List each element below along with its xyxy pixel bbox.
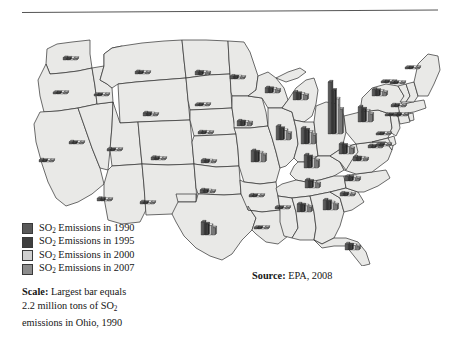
state-AZ — [104, 164, 146, 224]
legend-swatch-1990 — [22, 223, 33, 234]
scale-note-subscript: 2 — [114, 304, 118, 312]
bar-cluster-WV — [339, 142, 354, 154]
top-divider-rule — [22, 9, 438, 13]
source-note-value: EPA, 2008 — [286, 270, 333, 281]
legend-swatch-1995 — [22, 237, 33, 248]
bar-cluster-ME — [405, 66, 420, 69]
bar-cluster-ID — [94, 93, 109, 96]
bar-cluster-MA — [391, 103, 406, 107]
legend-label-2000: SO2 Emissions in 2000 — [39, 250, 134, 262]
bar-cluster-RI — [393, 113, 408, 116]
legend-swatch-2007 — [22, 264, 33, 275]
figure-sulfur-dioxide-emissions-map: SO2 Emissions in 1990 SO2 Emissions in 1… — [0, 0, 460, 342]
scale-note-label: Scale: — [22, 286, 48, 297]
bar-cluster-OR — [53, 91, 68, 94]
bar-cluster-SD — [195, 103, 210, 106]
bar-cluster-DE — [376, 143, 391, 146]
legend-label-1995: SO2 Emissions in 1995 — [39, 236, 134, 248]
state-MN — [228, 41, 258, 96]
legend-swatch-2000 — [22, 250, 33, 261]
legend-item-1995: SO2 Emissions in 1995 — [22, 236, 222, 250]
bar-cluster-NM — [140, 200, 155, 204]
bar-cluster-OH — [328, 80, 343, 134]
legend-label-1990: SO2 Emissions in 1990 — [39, 223, 134, 235]
legend: SO2 Emissions in 1990 SO2 Emissions in 1… — [22, 222, 222, 276]
bar-cluster-CA — [39, 158, 54, 162]
bar-cluster-AR — [249, 193, 264, 197]
source-note: Source: EPA, 2008 — [252, 270, 332, 281]
bar-cluster-NV — [69, 140, 84, 144]
state-WY — [118, 78, 190, 123]
bar-cluster-NH — [390, 81, 405, 84]
state-ME — [414, 54, 440, 96]
scale-note: Scale: Largest bar equals 2.2 million to… — [22, 285, 212, 330]
bar-cluster-MS — [275, 205, 290, 209]
bar-cluster-WA — [63, 56, 78, 60]
source-note-label: Source: — [252, 270, 286, 281]
bar-cluster-MT — [135, 70, 150, 74]
legend-item-1990: SO2 Emissions in 1990 — [22, 222, 222, 236]
bar-cluster-UT — [107, 147, 122, 151]
legend-item-2007: SO2 Emissions in 2007 — [22, 263, 222, 277]
bar-cluster-LA — [254, 226, 269, 229]
legend-item-2000: SO2 Emissions in 2000 — [22, 249, 222, 263]
scale-note-line3: emissions in Ohio, 1990 — [22, 317, 122, 328]
legend-label-2007: SO2 Emissions in 2007 — [39, 263, 134, 275]
scale-note-line1: Largest bar equals — [48, 286, 126, 297]
bar-cluster-NJ — [376, 132, 391, 135]
scale-note-line2: 2.2 million tons of SO — [22, 300, 114, 311]
bar-cluster-NE — [198, 130, 213, 134]
